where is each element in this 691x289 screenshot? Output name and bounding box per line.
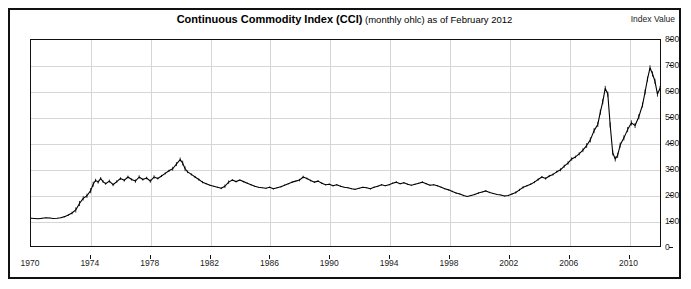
x-tick-label-1982: 1982 xyxy=(200,258,219,268)
x-tick-label-1986: 1986 xyxy=(260,258,279,268)
x-tick-label-1994: 1994 xyxy=(380,258,399,268)
y-tick-500 xyxy=(669,117,673,118)
y-tick-700 xyxy=(669,65,673,66)
x-tick-2010 xyxy=(629,255,630,259)
x-tick-1982 xyxy=(210,255,211,259)
x-tick-1994 xyxy=(389,255,390,259)
plot-area xyxy=(30,39,661,247)
ohlc-marks xyxy=(31,65,660,219)
x-tick-label-2010: 2010 xyxy=(619,258,638,268)
y-tick-300 xyxy=(669,169,673,170)
chart-frame: Continuous Commodity Index (CCI) (monthl… xyxy=(8,8,681,279)
y-tick-0 xyxy=(669,247,673,248)
x-tick-label-1978: 1978 xyxy=(140,258,159,268)
y-tick-200 xyxy=(669,195,673,196)
x-tick-label-2006: 2006 xyxy=(559,258,578,268)
chart-title-bold: Continuous Commodity Index (CCI) xyxy=(177,13,363,25)
y-tick-600 xyxy=(669,91,673,92)
x-tick-2002 xyxy=(509,255,510,259)
x-tick-1986 xyxy=(269,255,270,259)
chart-header: Continuous Commodity Index (CCI) (monthl… xyxy=(10,10,679,32)
x-tick-label-1990: 1990 xyxy=(320,258,339,268)
x-tick-label-2002: 2002 xyxy=(499,258,518,268)
chart-title-subtitle: (monthly ohlc) as of February 2012 xyxy=(362,14,512,25)
chart-title: Continuous Commodity Index (CCI) (monthl… xyxy=(10,13,679,26)
x-tick-1998 xyxy=(449,255,450,259)
y-tick-400 xyxy=(669,143,673,144)
x-tick-label-1970: 1970 xyxy=(21,258,40,268)
y-tick-800 xyxy=(669,39,673,40)
x-tick-label-1974: 1974 xyxy=(80,258,99,268)
series-cci xyxy=(31,40,660,246)
x-tick-1974 xyxy=(90,255,91,259)
x-tick-1978 xyxy=(150,255,151,259)
x-tick-1990 xyxy=(329,255,330,259)
y-axis-title: Index Value xyxy=(631,14,675,24)
y-tick-100 xyxy=(669,221,673,222)
x-tick-label-1998: 1998 xyxy=(440,258,459,268)
cci-line xyxy=(31,68,660,219)
x-tick-2006 xyxy=(569,255,570,259)
